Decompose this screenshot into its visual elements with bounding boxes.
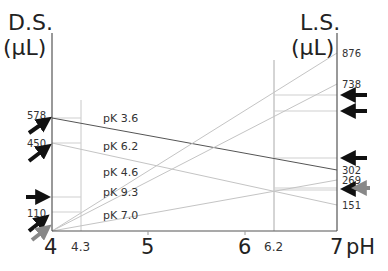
label-pk-3-6: pK 3.6 xyxy=(103,112,138,125)
x-tick-label-6-2: 6.2 xyxy=(264,240,283,254)
right-value-269: 269 xyxy=(342,175,361,186)
arrow-icon xyxy=(29,148,46,161)
x-tick-label-7: 7 xyxy=(330,235,343,259)
x-tick-label-5: 5 xyxy=(141,235,154,259)
label-pk-6-2: pK 6.2 xyxy=(103,140,138,153)
label-pk-4-6: pK 4.6 xyxy=(103,166,138,179)
x-tick-label-4-3: 4.3 xyxy=(71,240,90,254)
x-tick-label-4: 4 xyxy=(44,235,57,259)
x-tick-label-6: 6 xyxy=(238,235,251,259)
arrow-icon xyxy=(29,121,46,133)
series-line-pk-3-6 xyxy=(52,118,337,170)
x-axis-title: pH xyxy=(346,235,375,259)
left-value-450: 450 xyxy=(27,138,46,149)
label-pk-7-0: pK 7.0 xyxy=(103,209,138,222)
right-value-876: 876 xyxy=(342,48,361,59)
left-value-110: 110 xyxy=(27,208,46,219)
label-pk-9-3: pK 9.3 xyxy=(103,186,138,199)
ph-solubility-diagram: D.S. (μL) L.S. (μL) 578 450 110 876 738 … xyxy=(0,0,388,271)
right-axis-title-line1: L.S. xyxy=(300,10,340,35)
arrow-icon xyxy=(29,219,44,231)
series-line-pk-7-0 xyxy=(52,180,337,231)
right-value-738: 738 xyxy=(342,79,361,90)
series-line-pk-6-2 xyxy=(52,143,337,205)
right-value-151: 151 xyxy=(342,200,361,211)
right-axis-title-line2: (μL) xyxy=(291,35,334,60)
series-line-pk-4-6 xyxy=(52,53,337,231)
left-axis-title-line2: (μL) xyxy=(3,35,46,60)
left-value-578: 578 xyxy=(27,110,46,121)
left-axis-title-line1: D.S. xyxy=(8,10,53,35)
